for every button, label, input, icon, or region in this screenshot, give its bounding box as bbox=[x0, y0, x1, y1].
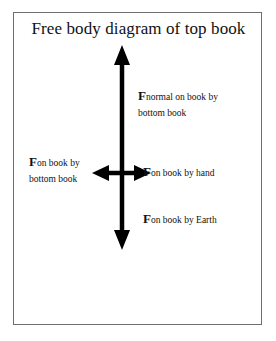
force-symbol: F bbox=[143, 211, 151, 226]
force-symbol: F bbox=[143, 164, 151, 179]
figure-frame: Free body diagram of top book Fnormal on… bbox=[13, 12, 262, 325]
down-arrowhead-icon bbox=[114, 230, 130, 250]
force-subscript-line-1: normal on book by bbox=[146, 92, 218, 102]
force-subscript-line-2: bottom book bbox=[138, 106, 258, 120]
force-subscript-line-1: on book by bbox=[37, 158, 80, 168]
force-symbol: F bbox=[138, 88, 146, 103]
figure-canvas: Free body diagram of top book Fnormal on… bbox=[0, 0, 276, 341]
force-subscript-line-1: on book by Earth bbox=[151, 215, 217, 225]
vertical-force-arrow bbox=[114, 45, 130, 250]
force-subscript-line-1: on book by hand bbox=[151, 168, 215, 178]
label-normal-force: Fnormal on book by bottom book bbox=[138, 89, 258, 120]
force-subscript-line-2: bottom book bbox=[29, 172, 125, 186]
label-earth-force: Fon book by Earth bbox=[143, 212, 261, 227]
label-hand-force: Fon book by hand bbox=[143, 165, 261, 180]
up-arrowhead-icon bbox=[114, 45, 130, 65]
label-bottom-book-force: Fon book by bottom book bbox=[29, 155, 125, 186]
force-symbol: F bbox=[29, 154, 37, 169]
figure-title: Free body diagram of top book bbox=[14, 19, 263, 39]
